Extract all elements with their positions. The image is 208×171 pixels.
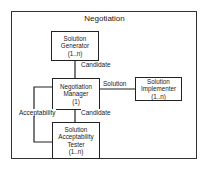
node-solution-implementer: Solution Implementer (1..n)	[135, 77, 182, 101]
node-label-line: Generator	[61, 42, 89, 49]
node-label-line: (1)	[72, 98, 80, 105]
node-label-line: Solution	[64, 35, 87, 42]
node-negotiation-manager: Negotiation Manager (1)	[52, 78, 100, 110]
node-label-line: Acceptability	[58, 133, 93, 140]
node-label-line: Solution	[147, 78, 170, 85]
node-label-line: (1..n)	[68, 50, 83, 57]
node-label-line: Tester	[67, 141, 84, 148]
edge-label-candidate-top: Candidate	[81, 61, 111, 68]
node-solution-generator: Solution Generator (1..n)	[51, 31, 99, 61]
node-label-line: Negotiation	[60, 83, 92, 90]
edge-label-candidate-bottom: Candidate	[81, 109, 111, 116]
node-label-line: Solution	[65, 126, 88, 133]
edge-label-solution: Solution	[103, 80, 127, 87]
node-label-line: (1..n)	[69, 148, 84, 155]
edge-label-acceptability: Acceptability	[19, 109, 56, 116]
node-label-line: Manager	[64, 90, 89, 97]
node-solution-acceptability-tester: Solution Acceptability Tester (1..n)	[52, 122, 100, 159]
node-label-line: Implementer	[141, 85, 176, 92]
node-label-line: (1..n)	[151, 93, 166, 100]
